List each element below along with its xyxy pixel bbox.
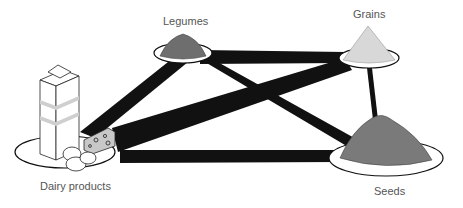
- legumes-pile-icon: [160, 34, 206, 59]
- legumes-label: Legumes: [163, 15, 208, 27]
- edge-grains-seeds: [367, 68, 378, 120]
- edges: [80, 50, 378, 163]
- grains-label: Grains: [353, 8, 385, 20]
- edge-legumes-grains: [200, 50, 345, 64]
- seeds-label: Seeds: [374, 185, 405, 197]
- protein-complement-diagram: Legumes Grains Dairy products Seeds: [0, 0, 463, 208]
- edge-dairy-seeds: [120, 150, 340, 163]
- diagram-graphics: [0, 0, 463, 208]
- seeds-pile-icon: [340, 115, 432, 165]
- seeds-node: [329, 115, 443, 176]
- grains-cone-icon: [343, 26, 395, 63]
- legumes-node: [154, 34, 212, 63]
- grains-node: [339, 26, 399, 68]
- dairy-label: Dairy products: [40, 180, 111, 192]
- milk-carton-icon: [40, 65, 79, 160]
- egg-icon: [80, 152, 96, 164]
